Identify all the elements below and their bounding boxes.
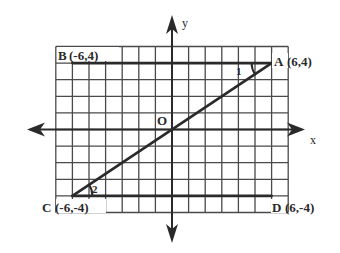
coordinate-diagram: y x O A (6,4) B (-6,4) C (-6,-4) D (6,-4…	[0, 0, 340, 253]
point-b-name: B	[58, 48, 67, 63]
angle-1-label: 1	[236, 65, 242, 77]
origin-label: O	[157, 113, 167, 128]
point-c-label: C (-6,-4)	[42, 199, 106, 215]
x-axis-label: x	[310, 133, 316, 147]
point-a-coords: (6,4)	[287, 54, 312, 69]
point-a-label: A (6,4)	[272, 53, 312, 69]
angle-2-label: 2	[92, 183, 98, 195]
point-b-label: B (-6,4)	[57, 47, 119, 63]
point-c-name: C	[42, 200, 51, 215]
diagram-svg: y x O A (6,4) B (-6,4) C (-6,-4) D (6,-4…	[0, 0, 340, 253]
point-b-coords: (-6,4)	[69, 48, 98, 63]
point-d-label: D (6,-4)	[271, 199, 314, 215]
y-axis-label: y	[182, 16, 188, 30]
point-a-name: A	[274, 54, 284, 69]
point-d-coords: (6,-4)	[285, 200, 314, 215]
point-c-coords: (-6,-4)	[55, 200, 89, 215]
point-d-name: D	[272, 200, 281, 215]
